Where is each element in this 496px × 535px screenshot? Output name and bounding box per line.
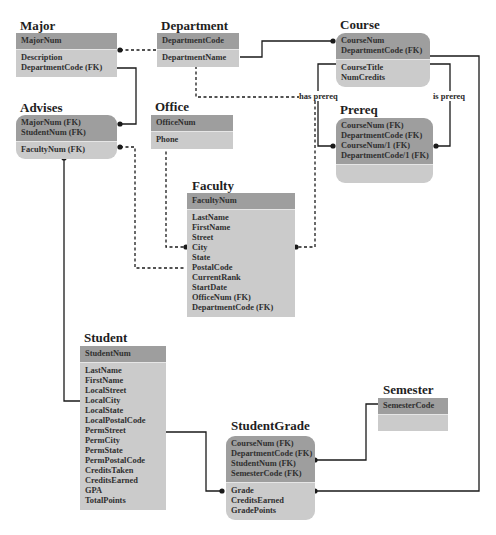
attribute: City	[192, 243, 290, 253]
primary-key-section: CourseNum DepartmentCode (FK)	[336, 33, 430, 59]
entity-title-advises: Advises	[20, 100, 63, 116]
relationship-label-is-prereq: is prereq	[433, 91, 465, 101]
entity-title-semester: Semester	[383, 382, 434, 398]
attribute: Street	[192, 233, 290, 243]
entity-prereq[interactable]: CourseNum (FK) DepartmentCode (FK) Cours…	[336, 118, 433, 183]
entity-title-student: Student	[84, 330, 127, 346]
attribute: DepartmentCode (FK)	[231, 449, 310, 459]
attribute: Phone	[156, 135, 228, 145]
entity-department[interactable]: DepartmentCode DepartmentName	[157, 33, 239, 67]
attribute-section	[336, 164, 433, 183]
line-department-course	[240, 41, 333, 57]
attribute: OfficeNum (FK)	[192, 293, 290, 303]
entity-student[interactable]: StudentNum LastName FirstName LocalStree…	[80, 346, 166, 510]
attribute: DepartmentCode/1 (FK)	[341, 151, 428, 161]
entity-title-office: Office	[155, 99, 189, 115]
attribute: SemesterCode	[383, 401, 443, 411]
attribute-section: Description DepartmentCode (FK)	[16, 49, 117, 77]
attribute: CreditsTaken	[85, 466, 161, 476]
primary-key-section: DepartmentCode	[157, 33, 239, 49]
attribute-section: Phone	[151, 131, 233, 149]
attribute: DepartmentName	[162, 53, 234, 63]
attribute-section: CourseTitle NumCredits	[336, 59, 430, 87]
attribute: LocalStreet	[85, 386, 161, 396]
attribute: LastName	[192, 213, 290, 223]
attribute: SemesterCode (FK)	[231, 469, 310, 479]
primary-key-section: FacultyNum	[187, 193, 295, 209]
primary-key-section: MajorNum (FK) StudentNum (FK)	[16, 115, 117, 141]
attribute: DepartmentCode (FK)	[341, 131, 428, 141]
attribute: FacultyNum (FK)	[21, 145, 112, 155]
attribute: LocalPostalCode	[85, 416, 161, 426]
attribute: StudentNum (FK)	[21, 128, 112, 138]
attribute: CreditsEarned	[231, 496, 310, 506]
attribute: StartDate	[192, 283, 290, 293]
entity-title-studentgrade: StudentGrade	[231, 418, 310, 434]
attribute: PermState	[85, 446, 161, 456]
attribute: CourseTitle	[341, 63, 425, 73]
primary-key-section: OfficeNum	[151, 115, 233, 131]
attribute: MajorNum	[21, 36, 112, 46]
entity-title-course: Course	[340, 17, 380, 33]
entity-advises[interactable]: MajorNum (FK) StudentNum (FK) FacultyNum…	[16, 115, 117, 159]
attribute: GPA	[85, 486, 161, 496]
attribute: StudentNum (FK)	[231, 459, 310, 469]
attribute: DepartmentCode (FK)	[192, 303, 290, 313]
attribute: CurrentRank	[192, 273, 290, 283]
primary-key-section: MajorNum	[16, 33, 117, 49]
attribute-section: Grade CreditsEarned GradePoints	[226, 482, 315, 520]
attribute-section: LastName FirstName LocalStreet LocalCity…	[80, 362, 166, 510]
entity-title-major: Major	[20, 18, 55, 34]
attribute: CourseNum	[341, 36, 425, 46]
attribute-section: LastName FirstName Street City State Pos…	[187, 209, 295, 317]
attribute: LocalCity	[85, 396, 161, 406]
attribute: Grade	[231, 486, 310, 496]
entity-course[interactable]: CourseNum DepartmentCode (FK) CourseTitl…	[336, 33, 430, 87]
attribute: FirstName	[85, 376, 161, 386]
attribute: Description	[21, 53, 112, 63]
entity-semester[interactable]: SemesterCode	[378, 398, 448, 431]
attribute: PermCity	[85, 436, 161, 446]
attribute: CourseNum (FK)	[231, 439, 310, 449]
entity-faculty[interactable]: FacultyNum LastName FirstName Street Cit…	[187, 193, 295, 317]
attribute: PermPostalCode	[85, 456, 161, 466]
entity-major[interactable]: MajorNum Description DepartmentCode (FK)	[16, 33, 117, 77]
line-advises-faculty	[120, 147, 186, 268]
attribute: NumCredits	[341, 73, 425, 83]
attribute: State	[192, 253, 290, 263]
line-office-faculty	[166, 146, 186, 247]
primary-key-section: CourseNum (FK) DepartmentCode (FK) Stude…	[226, 436, 315, 482]
attribute: FirstName	[192, 223, 290, 233]
line-semester-studentgrade	[315, 404, 378, 460]
entity-studentgrade[interactable]: CourseNum (FK) DepartmentCode (FK) Stude…	[226, 436, 315, 520]
attribute: CourseNum (FK)	[341, 121, 428, 131]
attribute: PostalCode	[192, 263, 290, 273]
attribute: FacultyNum	[192, 196, 290, 206]
entity-office[interactable]: OfficeNum Phone	[151, 115, 233, 149]
attribute: LocalState	[85, 406, 161, 416]
entity-title-prereq: Prereq	[340, 102, 378, 118]
relationship-label-has-prereq: has prereq	[299, 91, 338, 101]
attribute: OfficeNum	[156, 118, 228, 128]
primary-key-section: StudentNum	[80, 346, 166, 362]
line-major-advises	[117, 68, 136, 124]
primary-key-section: CourseNum (FK) DepartmentCode (FK) Cours…	[336, 118, 433, 164]
attribute: TotalPoints	[85, 496, 161, 506]
primary-key-section: SemesterCode	[378, 398, 448, 414]
line-student-studentgrade	[166, 432, 222, 491]
entity-title-department: Department	[161, 18, 228, 34]
attribute: MajorNum (FK)	[21, 118, 112, 128]
attribute: GradePoints	[231, 506, 310, 516]
attribute: PermStreet	[85, 426, 161, 436]
attribute: DepartmentCode (FK)	[21, 63, 112, 73]
attribute-section: FacultyNum (FK)	[16, 141, 117, 159]
attribute: CourseNum/1 (FK)	[341, 141, 428, 151]
attribute: DepartmentCode	[162, 36, 234, 46]
attribute-section: DepartmentName	[157, 49, 239, 67]
attribute: DepartmentCode (FK)	[341, 46, 425, 56]
attribute: CreditsEarned	[85, 476, 161, 486]
attribute: LastName	[85, 366, 161, 376]
attribute-section	[378, 414, 448, 431]
entity-title-faculty: Faculty	[192, 178, 234, 194]
attribute: StudentNum	[85, 349, 161, 359]
